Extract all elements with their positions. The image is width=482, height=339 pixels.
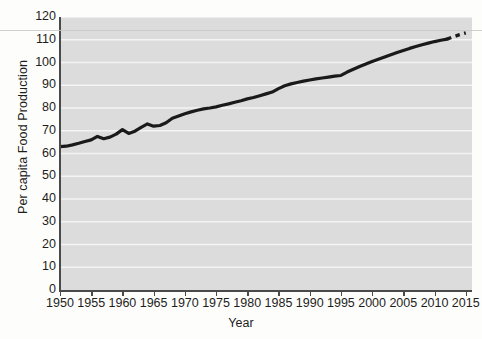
y-tick-label: 120 bbox=[14, 9, 56, 23]
y-tick-label: 30 bbox=[14, 214, 56, 228]
x-axis-label: Year bbox=[0, 316, 482, 330]
y-tick-label: 50 bbox=[14, 168, 56, 182]
x-tick-mark bbox=[278, 291, 279, 296]
y-tick-label: 0 bbox=[14, 282, 56, 296]
x-tick-mark bbox=[154, 291, 155, 296]
y-tick-label: 80 bbox=[14, 100, 56, 114]
y-tick-label: 20 bbox=[14, 237, 56, 251]
x-tick-mark bbox=[185, 291, 186, 296]
y-tick-label: 60 bbox=[14, 146, 56, 160]
x-tick-mark bbox=[341, 291, 342, 296]
plot-canvas bbox=[60, 17, 472, 290]
plot-area bbox=[60, 17, 472, 290]
x-tick-mark bbox=[247, 291, 248, 296]
y-tick-label: 10 bbox=[14, 259, 56, 273]
x-axis-line bbox=[59, 290, 472, 292]
x-tick-mark bbox=[122, 291, 123, 296]
x-tick-mark bbox=[435, 291, 436, 296]
y-tick-label: 40 bbox=[14, 191, 56, 205]
y-tick-label: 100 bbox=[14, 55, 56, 69]
x-tick-mark bbox=[372, 291, 373, 296]
x-tick-mark bbox=[91, 291, 92, 296]
y-tick-label: 70 bbox=[14, 123, 56, 137]
x-tick-mark bbox=[216, 291, 217, 296]
data-series-layer bbox=[60, 33, 466, 147]
per-capita-food-production-chart: Per capita Food Production Year 12011010… bbox=[0, 0, 482, 339]
x-tick-label: 2015 bbox=[446, 296, 482, 310]
y-axis-ticks: 1201101009080706050403020100 bbox=[14, 0, 56, 339]
data-line bbox=[447, 33, 466, 39]
x-tick-mark bbox=[310, 291, 311, 296]
y-tick-label: 110 bbox=[14, 32, 56, 46]
horizontal-gridlines bbox=[60, 17, 472, 267]
y-axis-line bbox=[59, 17, 61, 291]
x-tick-mark bbox=[466, 291, 467, 296]
y-tick-label: 90 bbox=[14, 77, 56, 91]
x-tick-mark bbox=[60, 291, 61, 296]
x-tick-mark bbox=[403, 291, 404, 296]
